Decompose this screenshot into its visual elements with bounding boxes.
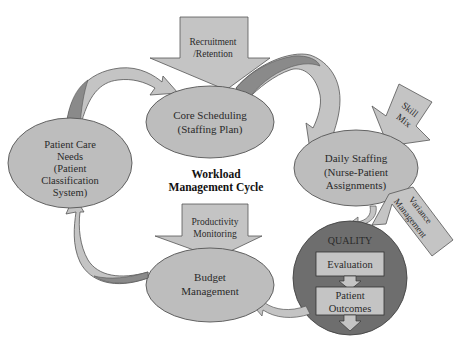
outcomes-label: Outcomes	[329, 303, 372, 314]
patient-paren-label: (Patient	[54, 163, 87, 175]
retention-label: /Retention	[193, 49, 233, 59]
title-line-2: Management Cycle	[169, 181, 264, 194]
quality-label: QUALITY	[328, 235, 372, 246]
recruitment-label: Recruitment	[190, 37, 237, 47]
workload-cycle-diagram: Recruitment /Retention Core Scheduling (…	[0, 0, 468, 342]
budget-label: Budget	[194, 271, 226, 283]
node-budget-management: Budget Management	[146, 248, 274, 322]
monitoring-label: Monitoring	[193, 229, 237, 239]
needs-label: Needs	[57, 151, 83, 162]
productivity-label: Productivity	[192, 217, 239, 227]
classification-label: Classification	[41, 175, 99, 186]
node-patient-care-needs: Patient Care Needs (Patient Classificati…	[8, 118, 132, 208]
core-scheduling-label: Core Scheduling	[173, 109, 247, 121]
arrow-budget-to-patient-needs	[66, 196, 148, 284]
staffing-plan-label: (Staffing Plan)	[178, 123, 243, 136]
node-core-scheduling: Core Scheduling (Staffing Plan)	[146, 86, 274, 158]
daily-staffing-label: Daily Staffing	[325, 152, 388, 164]
system-label: System)	[53, 187, 88, 199]
node-quality: QUALITY Evaluation Patient Outcomes	[293, 221, 407, 335]
nurse-patient-label: (Nurse-Patient	[324, 166, 388, 179]
diagram-title: Workload Management Cycle	[169, 168, 264, 194]
title-line-1: Workload	[191, 168, 241, 180]
budget-management-label: Management	[181, 285, 238, 297]
patient-label: Patient	[335, 290, 364, 301]
patient-care-label: Patient Care	[44, 139, 96, 150]
evaluation-label: Evaluation	[327, 259, 373, 270]
assignments-label: Assignments)	[326, 179, 387, 192]
